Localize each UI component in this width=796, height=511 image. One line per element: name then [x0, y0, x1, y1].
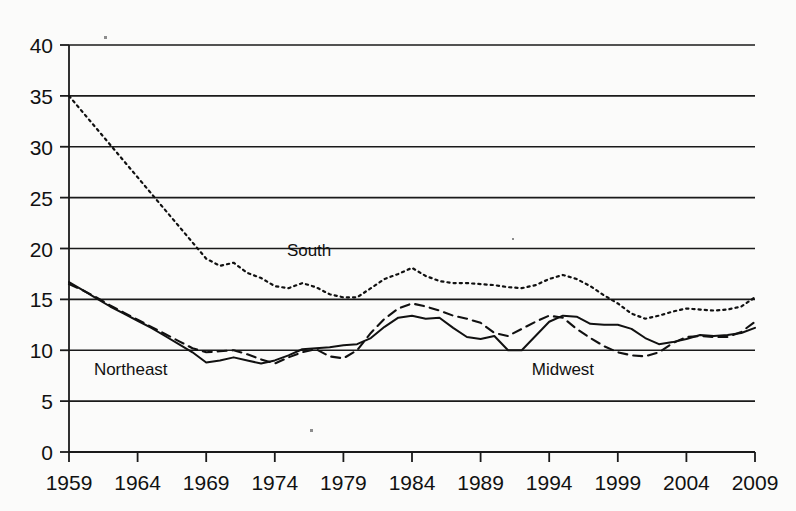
y-tick-label: 0 — [41, 441, 53, 464]
gridlines — [69, 45, 755, 452]
y-tick-label: 20 — [30, 238, 53, 261]
speck-dot — [310, 429, 313, 432]
x-tick-label: 1989 — [457, 471, 504, 494]
y-tick-label: 10 — [30, 339, 53, 362]
annotation-midwest: Midwest — [532, 360, 595, 379]
speck-dot — [104, 36, 107, 39]
y-tick-label: 40 — [30, 34, 53, 57]
y-tick-label: 15 — [30, 288, 53, 311]
x-tick-label: 2004 — [663, 471, 710, 494]
series-line-south — [69, 96, 755, 319]
x-tick-label: 1984 — [389, 471, 436, 494]
line-chart: 0510152025303540 19591964196919741979198… — [0, 0, 796, 511]
chart-container: 0510152025303540 19591964196919741979198… — [0, 0, 796, 511]
annotation-northeast: Northeast — [94, 360, 168, 379]
x-tick-labels: 1959196419691974197919841989199419992004… — [46, 471, 779, 494]
series-annotations: SouthNortheastMidwest — [94, 241, 594, 379]
data-series — [69, 96, 755, 364]
y-tick-label: 30 — [30, 136, 53, 159]
x-axis — [69, 452, 755, 462]
x-tick-label: 2009 — [732, 471, 779, 494]
annotation-south: South — [287, 241, 331, 260]
y-tick-label: 35 — [30, 85, 53, 108]
y-tick-label: 5 — [41, 390, 53, 413]
y-tick-label: 25 — [30, 187, 53, 210]
x-tick-label: 1979 — [320, 471, 367, 494]
y-tick-labels: 0510152025303540 — [30, 34, 53, 464]
x-tick-label: 1999 — [594, 471, 641, 494]
y-axis — [60, 45, 69, 452]
x-tick-label: 1964 — [114, 471, 161, 494]
x-tick-label: 1974 — [251, 471, 298, 494]
x-tick-label: 1959 — [46, 471, 93, 494]
x-tick-label: 1994 — [526, 471, 573, 494]
speck-dot — [512, 238, 514, 240]
series-line-northeast — [69, 282, 755, 363]
x-tick-label: 1969 — [183, 471, 230, 494]
series-line-midwest — [69, 284, 755, 363]
